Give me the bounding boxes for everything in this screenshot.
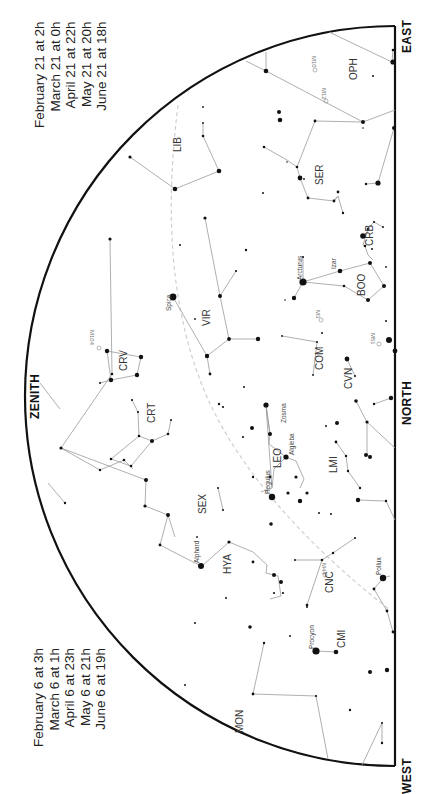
constellation-label-sex: SEX bbox=[197, 494, 208, 514]
direction-label-west: WEST bbox=[400, 758, 414, 794]
time-line: June 6 at 19h bbox=[93, 648, 109, 747]
time-line: March 6 at 1h bbox=[47, 648, 63, 747]
ecliptic-line bbox=[171, 105, 390, 610]
dso-label-m12: M12 bbox=[321, 88, 327, 100]
constellation-label-mon: MON bbox=[234, 710, 245, 733]
star-label-algieba: Algieba bbox=[288, 433, 296, 455]
star-label-procyon: Procyon bbox=[308, 625, 316, 649]
time-line: February 6 at 3h bbox=[31, 648, 47, 747]
time-line: February 21 at 2h bbox=[32, 21, 48, 128]
star-label-izar: Izar bbox=[330, 257, 337, 269]
time-line: April 6 at 23h bbox=[62, 648, 78, 747]
dso-label-m3: M3 bbox=[315, 310, 321, 319]
time-line: March 21 at 0h bbox=[48, 21, 64, 128]
constellation-label-leo: LEO bbox=[272, 448, 283, 468]
time-line: April 21 at 22h bbox=[63, 21, 79, 128]
constellation-label-cvn: CVN bbox=[343, 368, 354, 389]
star-label-alphard: Alphard bbox=[193, 540, 201, 563]
deep-sky-labels: M10 M12 M104 M3 M51 M44 bbox=[89, 56, 376, 575]
direction-label-north: NORTH bbox=[400, 381, 414, 425]
constellation-label-com: COM bbox=[314, 347, 325, 370]
time-line: June 21 at 18h bbox=[94, 21, 110, 128]
constellation-label-hya: HYA bbox=[222, 554, 233, 574]
time-line: May 6 at 21h bbox=[78, 648, 94, 747]
constellation-label-oph: OPH bbox=[348, 58, 359, 80]
constellation-labels: OPH LIB SER CRB BOO VIR COM CVN CRV CRT … bbox=[118, 58, 375, 733]
star-label-arcturus: Arcturus bbox=[296, 255, 303, 280]
dso-label-m104: M104 bbox=[89, 330, 95, 346]
constellation-label-crb: CRB bbox=[364, 225, 375, 246]
constellation-label-crv: CRV bbox=[118, 350, 129, 371]
time-block-top: February 21 at 2h March 21 at 0h April 2… bbox=[32, 21, 110, 128]
direction-label-east: EAST bbox=[400, 20, 414, 53]
constellation-label-ser: SER bbox=[314, 164, 325, 185]
dso-label-m10: M10 bbox=[311, 56, 317, 68]
dso-label-m44: M44 bbox=[321, 563, 327, 575]
dso-label-m51: M51 bbox=[370, 333, 376, 345]
constellation-label-lmi: LMI bbox=[328, 456, 339, 473]
star-label-regulus: Regulus bbox=[264, 469, 272, 494]
star-label-zosma: Zosma bbox=[280, 403, 287, 423]
constellation-label-crt: CRT bbox=[146, 403, 157, 423]
constellation-label-boo: BOO bbox=[356, 274, 367, 296]
constellation-label-vir: VIR bbox=[201, 309, 212, 326]
time-block-bottom: February 6 at 3h March 6 at 1h April 6 a… bbox=[31, 648, 109, 747]
time-line: May 21 at 20h bbox=[79, 21, 95, 128]
constellation-label-cmi: CMI bbox=[336, 630, 347, 648]
star-label-pollux: Pollux bbox=[375, 557, 382, 575]
star-label-spica: Spica bbox=[165, 294, 173, 311]
direction-label-zenith: ZENITH bbox=[28, 374, 42, 419]
deep-sky-objects bbox=[97, 68, 381, 577]
constellation-label-lib: LIB bbox=[172, 137, 183, 152]
